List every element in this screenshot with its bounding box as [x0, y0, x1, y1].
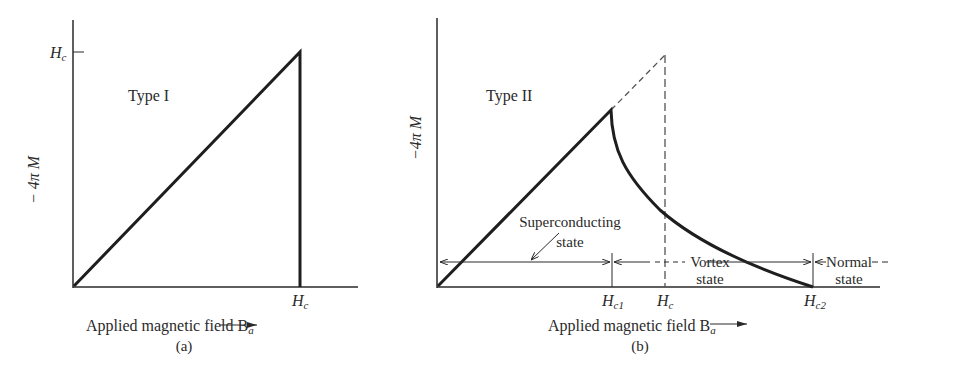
caption-b: (b): [631, 338, 649, 355]
magnetization-curve-type-i: [74, 52, 300, 287]
x-tick-label-hc1: Hc1: [601, 292, 624, 311]
panel-title-type-i: Type I: [128, 87, 169, 105]
superconducting-label: Superconducting: [519, 214, 621, 230]
caption-a: (a): [176, 338, 193, 355]
vortex-state-label: state: [696, 271, 724, 287]
figure: Hc Type I − 4π M Hc Applied magnetic fie…: [0, 0, 953, 375]
superconducting-state-label: state: [556, 234, 584, 250]
superconducting-pointer: [531, 233, 559, 260]
y-axis-label: − 4π M: [25, 154, 42, 204]
x-tick-label-hc: Hc: [291, 292, 309, 311]
magnetization-curve-type-ii: [438, 110, 813, 287]
panel-a: Hc Type I − 4π M Hc Applied magnetic fie…: [25, 20, 358, 355]
vortex-label: Vortex: [690, 254, 730, 270]
panel-b: Type II −4π M Superconducting state Vort…: [407, 18, 890, 355]
normal-label: Normal: [826, 254, 872, 270]
normal-state-label: state: [835, 271, 863, 287]
x-tick-label-hc: Hc: [656, 292, 674, 311]
x-tick-label-hc2: Hc2: [803, 292, 826, 311]
panel-title-type-ii: Type II: [486, 87, 532, 105]
y-axis-label: −4π M: [407, 114, 424, 160]
y-tick-label-hc: Hc: [49, 44, 67, 63]
x-axis-label: Applied magnetic field Ba: [548, 317, 716, 336]
dashed-extension: [611, 55, 665, 110]
x-axis-label: Applied magnetic field Ba: [86, 317, 254, 336]
